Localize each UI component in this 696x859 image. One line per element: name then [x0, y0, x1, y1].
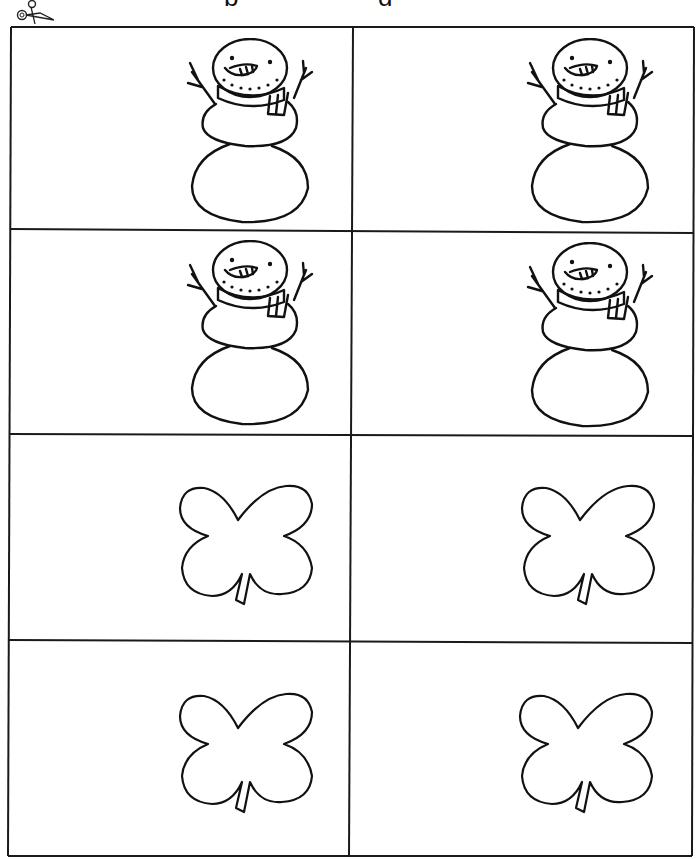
card-shamrock-r3c1	[174, 472, 320, 608]
card-snowman-r1c1	[170, 38, 330, 228]
card-shamrock-r3c2	[516, 472, 662, 608]
card-shamrock-r4c2	[514, 680, 660, 816]
card-snowman-r1c2	[510, 38, 670, 228]
card-snowman-r2c2	[510, 242, 670, 432]
card-snowman-r2c1	[170, 240, 330, 430]
card-shamrock-r4c1	[174, 680, 320, 816]
